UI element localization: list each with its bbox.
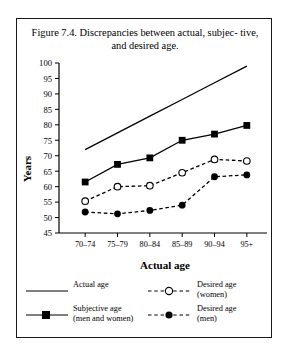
legend-label: Desired age (men) bbox=[197, 304, 236, 323]
dashed-line-open-circle-icon bbox=[147, 285, 191, 297]
solid-line-icon bbox=[25, 285, 69, 297]
svg-text:90: 90 bbox=[43, 89, 52, 99]
svg-text:70–74: 70–74 bbox=[75, 240, 95, 249]
data-series-group bbox=[82, 66, 250, 217]
legend-label: Subjective age (men and women) bbox=[73, 304, 133, 323]
x-axis: 70–7475–7980–8485–8990–9495+ bbox=[59, 233, 267, 249]
figure-container: Figure 7.4. Discrepancies between actual… bbox=[16, 18, 272, 338]
chart-svg: 4550556065707580859095100 70–7475–7980–8… bbox=[17, 57, 273, 279]
svg-text:85–89: 85–89 bbox=[172, 240, 192, 249]
y-axis-title: Years bbox=[21, 155, 33, 182]
plot-area: 4550556065707580859095100 70–7475–7980–8… bbox=[17, 57, 273, 279]
svg-text:90–94: 90–94 bbox=[204, 240, 224, 249]
x-axis-title: Actual age bbox=[140, 259, 190, 271]
svg-text:45: 45 bbox=[43, 228, 52, 238]
svg-text:55: 55 bbox=[43, 197, 52, 207]
legend-item: Desired age (men) bbox=[147, 307, 267, 331]
svg-text:70: 70 bbox=[43, 151, 52, 161]
legend-label: Actual age bbox=[73, 280, 109, 290]
y-axis: 4550556065707580859095100 bbox=[39, 58, 59, 238]
svg-text:75–79: 75–79 bbox=[107, 240, 127, 249]
svg-text:75: 75 bbox=[43, 136, 52, 146]
svg-text:50: 50 bbox=[43, 213, 52, 223]
legend-label: Desired age (women) bbox=[197, 280, 236, 299]
svg-text:80–84: 80–84 bbox=[140, 240, 160, 249]
svg-text:80: 80 bbox=[43, 120, 52, 130]
svg-text:60: 60 bbox=[43, 182, 52, 192]
figure-title: Figure 7.4. Discrepancies between actual… bbox=[25, 27, 265, 52]
legend-column-right: Desired age (women) Desired age (men) bbox=[147, 283, 267, 331]
dashed-line-filled-circle-icon bbox=[147, 309, 191, 321]
chart-legend: Actual age Subjective age (men and women… bbox=[23, 283, 267, 333]
svg-text:65: 65 bbox=[43, 167, 52, 177]
legend-column-left: Actual age Subjective age (men and women… bbox=[25, 283, 145, 331]
svg-text:85: 85 bbox=[43, 105, 52, 115]
solid-line-filled-square-icon bbox=[25, 309, 69, 321]
svg-text:95+: 95+ bbox=[240, 240, 253, 249]
legend-item: Subjective age (men and women) bbox=[25, 307, 145, 331]
svg-text:100: 100 bbox=[39, 58, 52, 68]
svg-text:95: 95 bbox=[43, 74, 52, 84]
